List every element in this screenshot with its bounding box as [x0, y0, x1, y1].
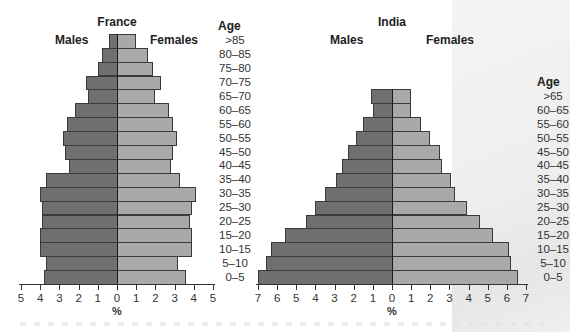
age-group-label: 25–30 — [531, 201, 570, 213]
x-tick-label: 1 — [366, 292, 380, 304]
male-bar — [325, 187, 392, 202]
x-tick-label: 0 — [385, 292, 399, 304]
x-tick — [296, 284, 297, 290]
age-group-label: 45–50 — [531, 146, 570, 158]
females-label: Females — [426, 33, 474, 47]
x-axis-label: % — [387, 305, 397, 317]
x-tick — [335, 284, 336, 290]
x-tick — [258, 284, 259, 290]
female-bar — [392, 159, 442, 174]
x-tick — [411, 284, 412, 290]
male-bar — [306, 215, 392, 230]
x-tick-label: 3 — [442, 292, 456, 304]
age-group-label: 10–15 — [531, 243, 570, 255]
x-tick-label: 4 — [308, 292, 322, 304]
x-tick — [373, 284, 374, 290]
male-bar — [271, 242, 392, 257]
female-bar — [392, 117, 421, 132]
x-tick-label: 7 — [519, 292, 533, 304]
x-tick — [507, 284, 508, 290]
male-bar — [356, 131, 392, 146]
female-bar — [392, 187, 455, 202]
female-bar — [392, 145, 440, 160]
x-tick-label: 7 — [251, 292, 265, 304]
male-bar — [373, 103, 392, 118]
male-bar — [342, 159, 392, 174]
age-group-label: >65 — [531, 90, 570, 102]
age-group-label: 30–35 — [531, 187, 570, 199]
male-bar — [371, 89, 392, 104]
male-bar — [336, 173, 392, 188]
x-tick-label: 2 — [347, 292, 361, 304]
x-tick — [315, 284, 316, 290]
x-tick-label: 5 — [289, 292, 303, 304]
faint-caption-bleedthrough — [20, 322, 550, 326]
age-group-label: 0–5 — [531, 271, 570, 283]
age-group-label: 55–60 — [531, 118, 570, 130]
female-bar — [392, 173, 451, 188]
male-bar — [258, 270, 392, 285]
male-bar — [285, 228, 392, 243]
age-group-label: 35–40 — [531, 173, 570, 185]
x-tick-label: 6 — [270, 292, 284, 304]
male-bar — [363, 117, 392, 132]
india-pyramid: India Males Females Age % >6560–6555–605… — [0, 0, 570, 332]
x-tick — [354, 284, 355, 290]
age-group-label: 15–20 — [531, 229, 570, 241]
x-tick — [449, 284, 450, 290]
x-tick-label: 5 — [481, 292, 495, 304]
center-axis-line — [392, 89, 393, 284]
female-bar — [392, 228, 493, 243]
x-tick-label: 6 — [500, 292, 514, 304]
age-group-label: 5–10 — [531, 257, 570, 269]
x-tick — [430, 284, 431, 290]
age-header: Age — [537, 75, 560, 89]
males-label: Males — [330, 33, 363, 47]
male-bar — [348, 145, 392, 160]
x-tick-label: 2 — [423, 292, 437, 304]
male-bar — [315, 201, 392, 216]
female-bar — [392, 256, 511, 271]
female-bar — [392, 103, 411, 118]
x-tick — [488, 284, 489, 290]
x-tick-label: 3 — [328, 292, 342, 304]
age-group-label: 20–25 — [531, 215, 570, 227]
x-tick — [469, 284, 470, 290]
x-tick — [392, 284, 393, 290]
age-group-label: 60–65 — [531, 104, 570, 116]
female-bar — [392, 270, 518, 285]
female-bar — [392, 201, 467, 216]
male-bar — [266, 256, 392, 271]
female-bar — [392, 131, 430, 146]
x-tick — [526, 284, 527, 290]
female-bar — [392, 242, 509, 257]
x-tick-label: 4 — [462, 292, 476, 304]
female-bar — [392, 215, 480, 230]
age-group-label: 40–45 — [531, 159, 570, 171]
x-tick — [277, 284, 278, 290]
age-group-label: 50–55 — [531, 132, 570, 144]
x-tick-label: 1 — [404, 292, 418, 304]
chart-title: India — [352, 15, 432, 29]
female-bar — [392, 89, 411, 104]
